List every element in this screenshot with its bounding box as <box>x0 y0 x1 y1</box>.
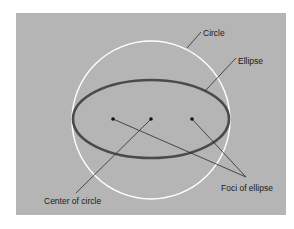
circle-label: Circle <box>203 28 225 38</box>
ellipse-circle-diagram: Circle Ellipse Foci of ellipse Center of… <box>0 0 294 229</box>
right-focus-point <box>190 117 194 121</box>
center-point <box>149 117 153 121</box>
center-label: Center of circle <box>44 196 101 206</box>
left-focus-point <box>111 117 115 121</box>
foci-label: Foci of ellipse <box>221 183 273 193</box>
ellipse-label: Ellipse <box>238 56 263 66</box>
